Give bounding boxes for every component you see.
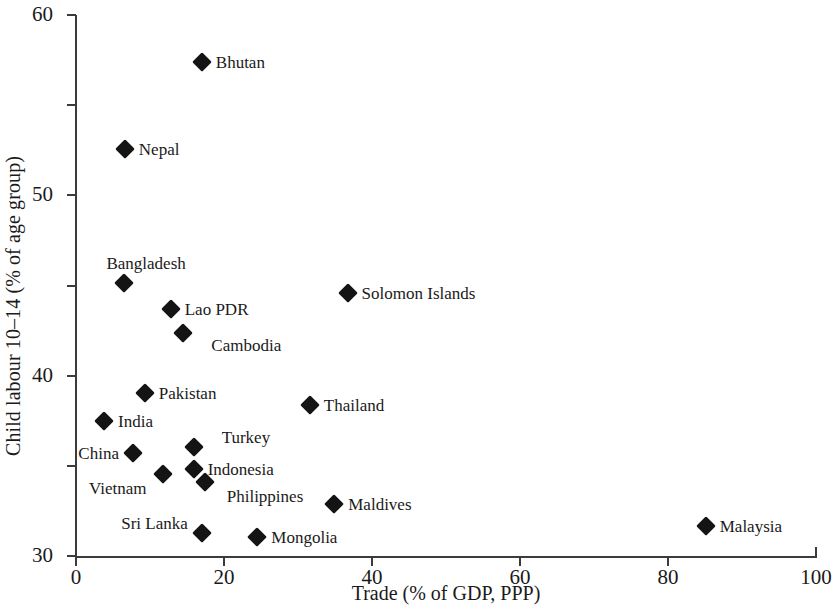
data-point-label: Mongolia bbox=[271, 529, 337, 546]
data-point-label: Vietnam bbox=[89, 479, 147, 496]
y-axis-title: Child labour 10–14 (% of age group) bbox=[0, 0, 26, 612]
data-point-label: Bangladesh bbox=[106, 254, 185, 271]
diamond-marker-icon bbox=[123, 443, 143, 463]
plot-area: 0102030405060 020406080100 BhutanNepalBa… bbox=[76, 15, 816, 557]
x-axis-line bbox=[75, 556, 817, 558]
data-point-label: Nepal bbox=[139, 141, 180, 158]
y-tick-40: 40 bbox=[67, 194, 76, 196]
y-tick-10: 10 bbox=[67, 465, 76, 467]
data-point-label: Solomon Islands bbox=[362, 284, 476, 301]
y-tick-label-40: 40 bbox=[32, 364, 53, 385]
y-tick-label-60: 60 bbox=[32, 4, 53, 25]
y-tick-30: 30 bbox=[67, 285, 76, 287]
data-point-label: Cambodia bbox=[211, 337, 281, 354]
diamond-marker-icon bbox=[247, 527, 267, 547]
y-tick-20: 20 bbox=[67, 375, 76, 377]
data-point-label: China bbox=[78, 445, 119, 462]
y-tick-50: 50 bbox=[67, 104, 76, 106]
diamond-marker-icon bbox=[184, 437, 204, 457]
data-point-label: Malaysia bbox=[720, 518, 782, 535]
data-point-label: Turkey bbox=[222, 428, 271, 445]
y-tick-label-30: 30 bbox=[32, 545, 53, 566]
y-tick-60: 60 bbox=[67, 14, 76, 16]
diamond-marker-icon bbox=[192, 52, 212, 72]
diamond-marker-icon bbox=[173, 323, 193, 343]
diamond-marker-icon bbox=[135, 383, 155, 403]
diamond-marker-icon bbox=[94, 411, 114, 431]
diamond-marker-icon bbox=[115, 139, 135, 159]
diamond-marker-icon bbox=[161, 299, 181, 319]
y-tick-label-50: 50 bbox=[32, 184, 53, 205]
diamond-marker-icon bbox=[153, 464, 173, 484]
diamond-marker-icon bbox=[324, 494, 344, 514]
diamond-marker-icon bbox=[300, 396, 320, 416]
data-point-label: Maldives bbox=[348, 495, 411, 512]
data-point-label: Bhutan bbox=[216, 53, 265, 70]
data-point-label: Indonesia bbox=[208, 461, 274, 478]
diamond-marker-icon bbox=[338, 283, 358, 303]
y-axis-line bbox=[75, 15, 77, 558]
data-point-label: Sri Lanka bbox=[121, 515, 188, 532]
x-tick-100 bbox=[815, 547, 817, 558]
scatter-chart-figure: Child labour 10–14 (% of age group) 0102… bbox=[0, 0, 832, 612]
diamond-marker-icon bbox=[114, 273, 134, 293]
diamond-marker-icon bbox=[696, 516, 716, 536]
diamond-marker-icon bbox=[192, 524, 212, 544]
data-point-label: Philippines bbox=[227, 488, 304, 505]
data-point-label: Pakistan bbox=[159, 384, 217, 401]
x-axis-title: Trade (% of GDP, PPP) bbox=[76, 581, 816, 605]
data-point-label: Thailand bbox=[324, 397, 384, 414]
data-point-label: India bbox=[118, 412, 153, 429]
data-point-label: Lao PDR bbox=[185, 300, 249, 317]
